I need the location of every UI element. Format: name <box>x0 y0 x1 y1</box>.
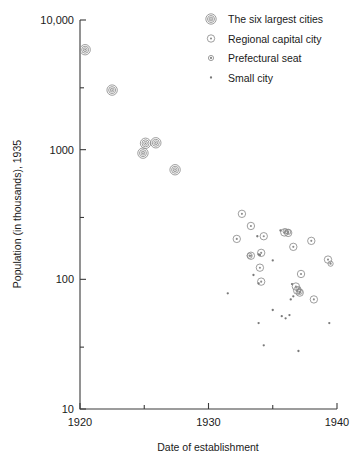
series-2 <box>247 229 333 295</box>
legend-item: Small city <box>210 72 274 84</box>
legend: The six largest citiesRegional capital c… <box>206 13 323 84</box>
marker-dot <box>288 314 290 316</box>
legend-label: Small city <box>228 72 274 84</box>
plot-area: 10100100010,000192019301940 The six larg… <box>0 0 358 464</box>
y-tick-label: 10 <box>62 403 74 415</box>
marker-dot <box>272 259 274 261</box>
legend-label: The six largest cities <box>228 13 323 25</box>
marker-double-ring-dot <box>138 148 148 158</box>
legend-item: Prefectural seat <box>208 52 301 64</box>
x-tick-label: 1940 <box>325 416 349 428</box>
marker-ring-dot <box>308 237 315 244</box>
marker-dot <box>257 322 259 324</box>
marker-double-ring-dot <box>80 45 90 55</box>
marker-dot <box>328 322 330 324</box>
marker-dot <box>256 235 258 237</box>
series-3 <box>227 229 331 352</box>
marker-double-ring-dot <box>140 138 150 148</box>
x-tick-label: 1930 <box>196 416 220 428</box>
series-0 <box>80 45 180 175</box>
legend-item: The six largest cities <box>206 13 323 25</box>
marker-dot <box>284 317 286 319</box>
marker-double-ring-dot <box>107 85 117 95</box>
marker-double-ring-dot <box>170 165 180 175</box>
tick-labels: 10100100010,000192019301940 <box>40 14 349 428</box>
marker-dot <box>297 350 299 352</box>
marker-ring-dot <box>207 35 214 42</box>
marker-double-ring-dot <box>151 138 161 148</box>
legend-item: Regional capital city <box>207 33 322 45</box>
y-tick-label: 10,000 <box>40 14 74 26</box>
marker-ring-dot <box>290 243 297 250</box>
x-axis-title: Date of establishment <box>157 441 259 453</box>
scatter-chart: 10100100010,000192019301940 The six larg… <box>0 0 358 464</box>
marker-dot <box>281 315 283 317</box>
x-tick-label: 1920 <box>68 416 92 428</box>
marker-ring-dot <box>238 210 245 217</box>
marker-dot <box>290 298 292 300</box>
marker-ring-dot <box>257 249 264 256</box>
marker-double-ring-dot <box>206 14 216 24</box>
marker-ring-dot <box>297 270 304 277</box>
y-tick-label: 1000 <box>50 144 74 156</box>
marker-dot <box>279 229 281 231</box>
marker-dot <box>227 292 229 294</box>
marker-dot <box>259 254 261 256</box>
marker-dot <box>272 309 274 311</box>
data-points <box>80 45 333 353</box>
marker-ring-dot <box>256 264 263 271</box>
marker-dot <box>292 295 294 297</box>
marker-dot <box>210 76 212 78</box>
marker-ring-dot <box>233 235 240 242</box>
marker-ring-dot <box>260 233 267 240</box>
marker-ring-dot <box>247 222 254 229</box>
marker-dot <box>263 344 265 346</box>
legend-label: Prefectural seat <box>228 52 302 64</box>
series-1 <box>233 210 332 303</box>
marker-dot <box>252 274 254 276</box>
marker-ring-dot <box>310 296 317 303</box>
legend-label: Regional capital city <box>228 33 322 45</box>
y-tick-label: 100 <box>56 273 74 285</box>
y-axis-title: Population (in thousands), 1935 <box>11 140 23 288</box>
marker-small-ring <box>208 55 213 60</box>
marker-dot <box>291 283 293 285</box>
marker-dot <box>257 282 259 284</box>
